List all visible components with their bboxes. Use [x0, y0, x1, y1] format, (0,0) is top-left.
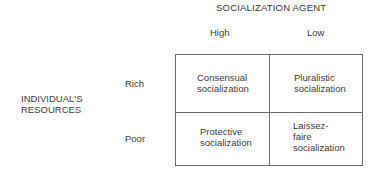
cell-text-line: Laissez-: [293, 120, 345, 131]
grid-divider-vertical: [269, 55, 270, 165]
cell-text-line: faire: [293, 131, 345, 142]
cell-rich-high: Consensual socialization: [197, 72, 249, 94]
cell-poor-low: Laissez- faire socialization: [293, 120, 345, 153]
row-header-poor: Poor: [125, 133, 145, 144]
row-axis-title-line2: RESOURCES: [21, 104, 82, 115]
grid-divider-horizontal: [176, 112, 362, 113]
cell-rich-low: Pluralistic socialization: [294, 72, 346, 94]
row-header-rich: Rich: [125, 78, 144, 89]
matrix-grid: Consensual socialization Pluralistic soc…: [175, 54, 363, 166]
cell-text-line: Consensual: [197, 72, 249, 83]
column-header-low: Low: [307, 27, 324, 38]
cell-text-line: Protective: [200, 126, 252, 137]
column-header-high: High: [210, 27, 230, 38]
cell-text-line: socialization: [200, 137, 252, 148]
cell-text-line: socialization: [293, 142, 345, 153]
column-axis-title: SOCIALIZATION AGENT: [216, 2, 326, 13]
row-axis-title: INDIVIDUAL'S RESOURCES: [21, 93, 82, 115]
cell-poor-high: Protective socialization: [200, 126, 252, 148]
cell-text-line: socialization: [197, 83, 249, 94]
cell-text-line: socialization: [294, 83, 346, 94]
row-axis-title-line1: INDIVIDUAL'S: [21, 93, 82, 104]
cell-text-line: Pluralistic: [294, 72, 346, 83]
